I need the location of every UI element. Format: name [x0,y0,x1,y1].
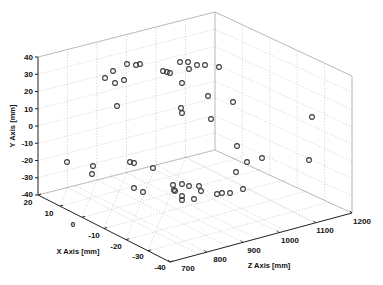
data-point-marker [90,172,95,177]
z-axis-label: Z Axis [mm] [248,261,291,270]
top-left-edge [38,12,215,57]
data-point-marker [209,117,214,122]
x-tick: -40 [154,263,166,272]
z-tick: 700 [181,264,195,273]
z-tick-mark [277,231,279,233]
data-point-marker [178,60,183,65]
y-tick: 40 [24,53,33,62]
data-point-marker [235,144,240,149]
x-tick: -30 [132,252,144,261]
data-point-marker [113,81,118,86]
y-gridline [215,98,352,161]
y-tick: -10 [21,139,33,148]
plot-canvas: 40 30 20 10 0 -10 -20 -30 -40 Y Axis [mm… [0,0,383,285]
scatter-points [65,60,315,203]
y-tick: 10 [24,105,33,114]
data-point-marker [203,63,208,68]
x-gridline-floor [60,188,68,207]
floor-gridline [127,173,259,240]
z-tick: 1100 [316,226,334,235]
data-point-marker [231,100,236,105]
data-point-marker [187,67,192,72]
data-point-marker [234,170,239,175]
z-tick: 800 [213,255,227,264]
y-gridline [215,81,352,144]
data-point-marker [180,81,185,86]
data-point-marker [192,197,197,202]
data-point-marker [220,191,225,196]
x-tick-mark [126,239,129,240]
z-tick-mark [241,240,243,242]
z-tick-mark [204,250,206,252]
data-point-marker [307,158,312,163]
data-point-marker [65,160,70,165]
data-point-marker [91,164,96,169]
z-gridline-floor [74,185,206,252]
data-point-marker [179,106,184,111]
data-point-marker [215,192,220,197]
z-tick-mark [168,260,170,262]
x-gridline-floor [104,173,127,229]
y-tick: -20 [21,156,33,165]
x-tick-labels: 20 10 0 -10 -20 -30 -40 [24,198,167,272]
data-point-marker [260,156,265,161]
y-gridline [215,116,352,179]
y-tick: 20 [24,87,33,96]
z-gridline-floor [147,166,279,233]
x-tick: 20 [24,198,33,207]
z-tick: 1200 [353,217,371,226]
tick-marks [35,57,352,262]
y-gridline [215,47,352,110]
data-point-marker [122,78,127,83]
data-point-marker [195,63,200,68]
x-tick: 0 [71,220,76,229]
y-tick: 0 [29,122,34,131]
y-tick-labels: 40 30 20 10 0 -10 -20 -30 -40 [21,53,33,199]
x-axis-label: X Axis [mm] [56,247,100,256]
top-right-edge [215,12,352,76]
z-tick-mark [314,221,316,223]
x-tick: -20 [110,242,122,251]
x-tick: -10 [88,231,100,240]
data-point-marker [206,94,211,99]
z-tick: 1000 [281,236,299,245]
z-tick: 900 [247,246,261,255]
x-tick-mark [170,261,173,262]
data-point-marker [186,60,191,65]
data-point-marker [103,76,108,81]
data-point-marker [180,182,185,187]
data-point-marker [125,62,130,67]
data-point-marker [111,69,116,74]
y-tick: 30 [24,70,33,79]
x-tick-mark [104,228,107,229]
data-point-marker [245,160,250,165]
scatter-3d-chart: 40 30 20 10 0 -10 -20 -30 -40 Y Axis [mm… [0,0,383,285]
data-point-marker [241,187,246,192]
y-gridline [215,133,352,196]
floor-right-edge [215,150,352,213]
data-point-marker [168,71,173,76]
data-point-marker [180,111,185,116]
floor-gridline [186,158,318,225]
y-tick: -30 [21,173,33,182]
y-gridline [215,29,352,92]
y-axis-label: Y Axis [mm] [8,104,17,147]
data-point-marker [171,183,176,188]
box-edges [38,12,352,262]
x-tick: 10 [45,209,54,218]
y-gridline [215,64,352,127]
data-point-marker [310,115,315,120]
